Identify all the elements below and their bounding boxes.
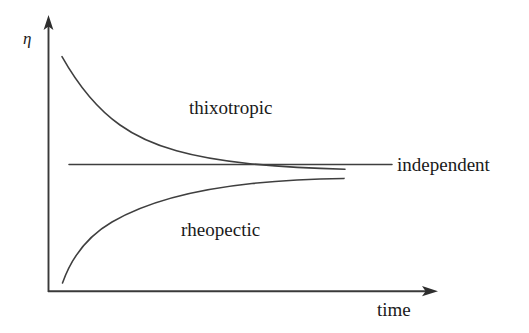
thixotropic-curve-label: thixotropic: [189, 98, 272, 117]
x-axis-label: time: [377, 300, 411, 319]
independent-curve-label: independent: [397, 155, 490, 174]
rheology-time-dependence-figure: η time thixotropic independent rheopecti…: [0, 0, 529, 333]
rheopectic-curve-label: rheopectic: [181, 220, 260, 239]
y-axis-label: η: [23, 30, 31, 47]
